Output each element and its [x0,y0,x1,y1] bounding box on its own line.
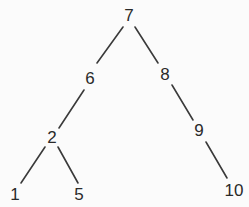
edge-7-6 [97,27,123,63]
node-5: 5 [74,185,83,204]
node-6: 6 [85,69,94,88]
binary-tree-diagram: 7 6 8 2 9 1 5 10 [0,0,249,207]
edge-6-2 [59,90,84,128]
node-2: 2 [47,128,56,147]
edge-2-1 [21,147,45,183]
edge-8-9 [172,85,193,120]
edge-9-10 [206,142,227,178]
node-7: 7 [124,6,133,25]
edge-2-5 [58,147,78,183]
tree-nodes: 7 6 8 2 9 1 5 10 [10,6,243,204]
node-1: 1 [10,185,19,204]
node-9: 9 [194,121,203,140]
tree-edges [21,27,227,183]
edge-7-8 [135,27,158,63]
node-8: 8 [160,65,169,84]
node-10: 10 [225,181,244,200]
